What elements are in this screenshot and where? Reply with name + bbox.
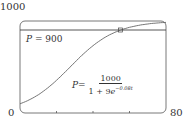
p900-label: P = 900 (26, 34, 63, 44)
formula-label: P = 1000 1 + 9e−0.08t (72, 74, 133, 96)
plot-area (0, 0, 187, 128)
